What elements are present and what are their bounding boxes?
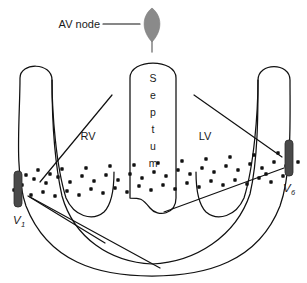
purkinje-dot	[281, 174, 284, 177]
purkinje-dot	[296, 160, 299, 163]
purkinje-dot	[245, 182, 248, 185]
septum-letter-e: e	[150, 89, 156, 101]
purkinje-dot	[197, 185, 200, 188]
purkinje-dot	[36, 168, 39, 171]
purkinje-dot	[149, 188, 152, 191]
septum-letter-m: m	[149, 157, 158, 169]
purkinje-dot	[224, 164, 227, 167]
purkinje-dot	[173, 187, 176, 190]
purkinje-dot	[161, 183, 164, 186]
purkinje-dot	[212, 170, 215, 173]
cardiac-conduction-diagram: AV node RV LV S e p t u m V 1 V 6	[0, 0, 307, 283]
purkinje-dot	[48, 172, 51, 175]
purkinje-dot	[188, 172, 191, 175]
purkinje-dot	[221, 183, 224, 186]
purkinje-dot	[252, 153, 255, 156]
purkinje-dot	[32, 177, 35, 180]
purkinje-dot	[137, 184, 140, 187]
septum-letter-p: p	[150, 106, 156, 118]
purkinje-dot	[248, 162, 251, 165]
purkinje-dot	[104, 173, 107, 176]
purkinje-dot	[41, 190, 44, 193]
purkinje-dot	[80, 174, 83, 177]
purkinje-dot	[233, 178, 236, 181]
v1-lead-subscript: 1	[21, 220, 25, 229]
purkinje-dot	[56, 175, 59, 178]
purkinje-dot	[29, 193, 32, 196]
purkinje-dot	[185, 181, 188, 184]
purkinje-dot	[60, 167, 63, 170]
purkinje-dot	[236, 168, 239, 171]
purkinje-dot	[269, 180, 272, 183]
purkinje-dot	[53, 194, 56, 197]
purkinje-dot	[128, 172, 131, 175]
v6-electrode[interactable]	[285, 140, 293, 176]
purkinje-dot	[260, 166, 263, 169]
av-node-label: AV node	[59, 18, 100, 30]
purkinje-dot	[200, 166, 203, 169]
purkinje-dot	[92, 179, 95, 182]
v1-electrode[interactable]	[14, 171, 22, 207]
septum-letter-t: t	[152, 123, 155, 135]
purkinje-dot	[125, 190, 128, 193]
purkinje-dot	[44, 181, 47, 184]
purkinje-dot	[24, 173, 27, 176]
lv-label: LV	[199, 130, 212, 142]
purkinje-dot	[65, 189, 68, 192]
purkinje-dot	[209, 179, 212, 182]
purkinje-dot	[140, 176, 143, 179]
purkinje-dot	[204, 157, 207, 160]
purkinje-dot	[77, 193, 80, 196]
purkinje-dot	[176, 168, 179, 171]
purkinje-dot	[84, 166, 87, 169]
purkinje-dot	[132, 163, 135, 166]
purkinje-dot	[108, 164, 111, 167]
purkinje-dot	[68, 180, 71, 183]
purkinje-dot	[228, 155, 231, 158]
purkinje-dot	[89, 187, 92, 190]
purkinje-dot	[101, 191, 104, 194]
septum-letter-s: S	[149, 72, 156, 84]
purkinje-dot	[164, 174, 167, 177]
purkinje-dot	[180, 159, 183, 162]
purkinje-dot	[116, 178, 119, 181]
septum-letter-u: u	[150, 140, 156, 152]
purkinje-dot	[152, 170, 155, 173]
purkinje-dot	[156, 161, 159, 164]
rv-label: RV	[80, 130, 96, 142]
purkinje-dot	[272, 160, 275, 163]
purkinje-dot	[113, 186, 116, 189]
